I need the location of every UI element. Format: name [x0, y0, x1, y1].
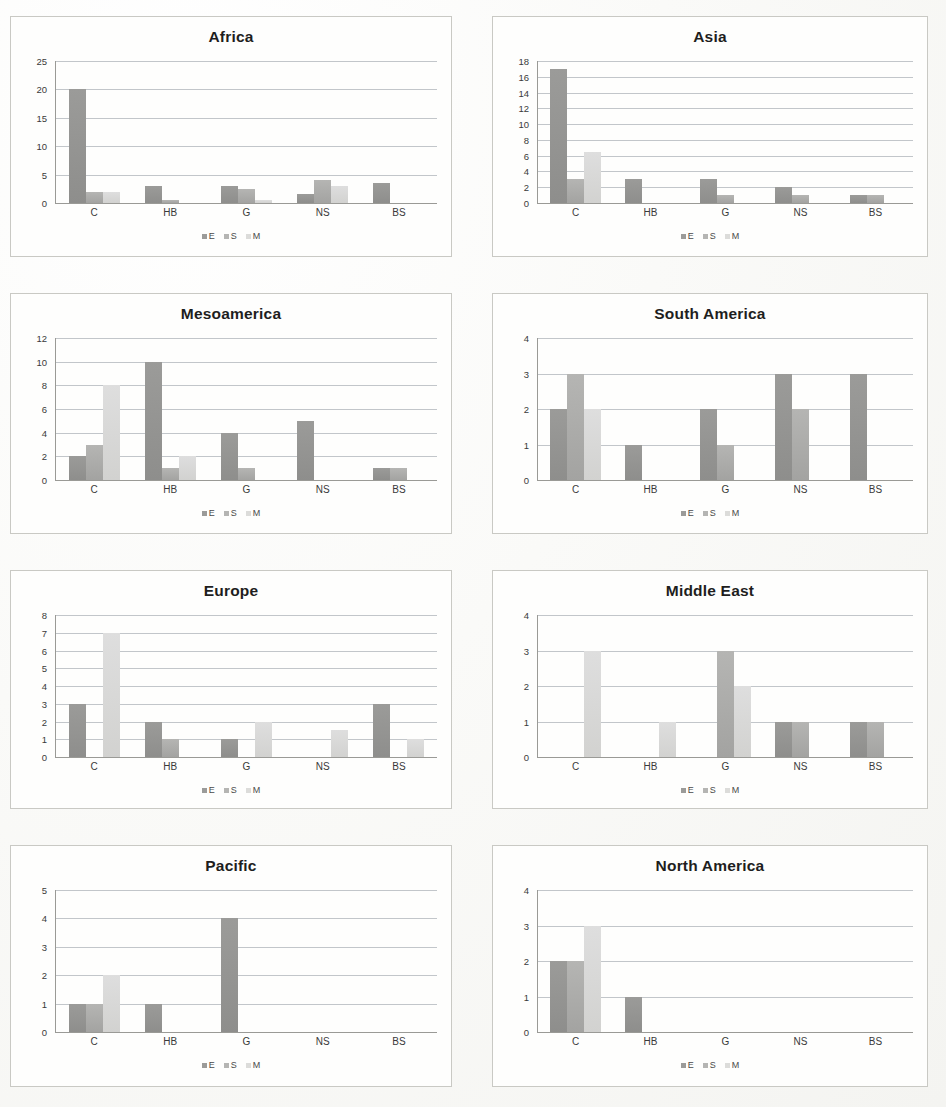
bar-e	[221, 918, 238, 1032]
x-tick-label: BS	[838, 1036, 913, 1047]
y-axis-labels: 01234	[493, 884, 533, 1086]
bar-group	[285, 61, 361, 203]
bar-e	[700, 409, 717, 480]
x-tick-label: G	[688, 1036, 763, 1047]
page-footer-text	[300, 1091, 936, 1105]
legend-swatch-e-icon	[202, 511, 207, 516]
y-tick-label: 12	[36, 333, 47, 344]
y-tick-label: 1	[524, 716, 529, 727]
bar-s	[717, 651, 734, 758]
legend-swatch-s-icon	[224, 788, 229, 793]
legend-label: E	[209, 1060, 215, 1070]
legend-item: E	[681, 508, 694, 518]
bar-groups	[56, 890, 437, 1032]
bar-s	[238, 468, 255, 480]
bar-e	[700, 179, 717, 203]
y-tick-label: 3	[524, 368, 529, 379]
legend-item: E	[681, 231, 694, 241]
x-tick-label: G	[688, 207, 763, 218]
x-tick-label: BS	[361, 484, 437, 495]
x-tick-label: BS	[838, 207, 913, 218]
bar-group	[613, 615, 688, 757]
y-tick-label: 10	[36, 356, 47, 367]
chart-title: Mesoamerica	[11, 305, 451, 323]
y-tick-label: 10	[36, 141, 47, 152]
bar-group	[688, 61, 763, 203]
legend-item: M	[725, 785, 740, 795]
bar-groups	[538, 615, 913, 757]
legend-swatch-e-icon	[681, 511, 686, 516]
chart-cell: Middle East01234CHBGNSBSESM	[476, 554, 946, 829]
chart-cell: Mesoamerica024681012CHBGNSBSESM	[0, 277, 476, 554]
bar-groups	[538, 338, 913, 480]
legend-swatch-s-icon	[224, 1063, 229, 1068]
bar-group	[285, 890, 361, 1032]
bar-e	[221, 433, 238, 480]
legend-label: S	[710, 1060, 716, 1070]
legend-item: E	[202, 1060, 215, 1070]
chart-legend: ESM	[11, 1060, 451, 1070]
plot-area: 01234CHBGNSBSESM	[493, 884, 927, 1086]
y-tick-label: 7	[42, 627, 47, 638]
x-tick-label: NS	[285, 1036, 361, 1047]
legend-item: S	[224, 231, 237, 241]
legend-swatch-m-icon	[725, 788, 730, 793]
y-axis-labels: 024681012141618	[493, 55, 533, 256]
y-tick-label: 3	[42, 698, 47, 709]
y-tick-label: 4	[42, 681, 47, 692]
legend-item: E	[681, 1060, 694, 1070]
x-tick-label: NS	[285, 484, 361, 495]
bar-group	[361, 338, 437, 480]
y-tick-label: 0	[524, 752, 529, 763]
bar-e	[69, 1004, 86, 1032]
x-tick-label: NS	[763, 484, 838, 495]
bar-group	[285, 615, 361, 757]
legend-swatch-s-icon	[703, 1063, 708, 1068]
y-tick-label: 2	[524, 681, 529, 692]
legend-label: M	[253, 1060, 261, 1070]
x-tick-label: BS	[838, 761, 913, 772]
x-tick-label: G	[208, 1036, 284, 1047]
chart-legend: ESM	[493, 1060, 927, 1070]
chart-cell: Africa0510152025CHBGNSBSESM	[0, 0, 476, 277]
y-tick-label: 4	[42, 913, 47, 924]
bar-s	[162, 468, 179, 480]
legend-item: S	[703, 231, 716, 241]
bar-group	[132, 615, 208, 757]
x-tick-label: BS	[361, 761, 437, 772]
bar-e	[373, 468, 390, 480]
y-tick-label: 16	[518, 71, 529, 82]
chart-title: South America	[493, 305, 927, 323]
gridline	[537, 1032, 913, 1033]
chart-panel-pacific: Pacific012345CHBGNSBSESM	[10, 845, 452, 1087]
bar-group	[688, 890, 763, 1032]
x-tick-label: C	[538, 484, 613, 495]
chart-title: North America	[493, 857, 927, 875]
y-tick-label: 8	[524, 134, 529, 145]
bar-e	[850, 374, 867, 481]
plot-area: 0510152025CHBGNSBSESM	[11, 55, 451, 256]
chart-panel-africa: Africa0510152025CHBGNSBSESM	[10, 16, 452, 257]
chart-grid: Africa0510152025CHBGNSBSESMAsia024681012…	[0, 0, 946, 1107]
bar-m	[103, 975, 120, 1032]
bar-m	[407, 739, 424, 757]
y-tick-label: 2	[42, 451, 47, 462]
x-tick-label: C	[538, 1036, 613, 1047]
bar-groups	[56, 61, 437, 203]
y-tick-label: 1	[524, 991, 529, 1002]
chart-cell: South America01234CHBGNSBSESM	[476, 277, 946, 554]
x-axis-labels: CHBGNSBS	[56, 207, 437, 218]
bar-e	[625, 445, 642, 481]
legend-item: E	[202, 785, 215, 795]
bar-s	[162, 200, 179, 203]
legend-item: M	[246, 785, 261, 795]
y-tick-label: 4	[524, 610, 529, 621]
bar-group	[132, 890, 208, 1032]
x-tick-label: G	[688, 484, 763, 495]
y-tick-label: 1	[524, 439, 529, 450]
bar-group	[838, 615, 913, 757]
bar-groups	[56, 615, 437, 757]
bar-e	[145, 186, 162, 203]
legend-label: M	[732, 231, 740, 241]
legend-label: E	[688, 231, 694, 241]
